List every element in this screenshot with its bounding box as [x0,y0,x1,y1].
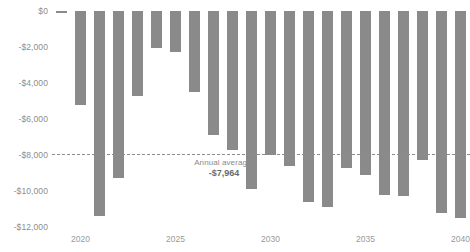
bars-layer [52,0,470,232]
bar [398,11,410,196]
bar [417,11,429,160]
y-axis-tick-label: -$10,000 [14,186,48,196]
bar [132,11,144,96]
bar [189,11,201,92]
x-axis: 20202025203020352040 [52,234,470,252]
bar [284,11,296,166]
bar [322,11,334,207]
bar [341,11,353,168]
x-axis-tick-label: 2040 [451,234,470,244]
y-axis-tick-label: $0 [38,6,48,16]
y-axis-tick-label: -$8,000 [18,150,48,160]
bar [436,11,448,213]
bar [227,11,239,150]
annual-average-line [52,154,470,155]
plot-area: Annual average: -$7,964 [52,0,470,232]
bar [303,11,315,202]
x-axis-tick-label: 2020 [71,234,90,244]
y-axis-tick-label: -$6,000 [18,114,48,124]
bar [455,11,467,218]
bar [56,11,68,13]
bar [113,11,125,178]
bar [265,11,277,155]
y-axis-tick-label: -$4,000 [18,78,48,88]
bar [151,11,163,48]
y-axis: $0-$2,000-$4,000-$6,000-$8,000-$10,000-$… [0,0,52,252]
x-axis-tick-label: 2035 [356,234,375,244]
x-axis-tick-label: 2025 [166,234,185,244]
bar [246,11,258,189]
bar-chart: $0-$2,000-$4,000-$6,000-$8,000-$10,000-$… [0,0,470,252]
bar [94,11,106,216]
y-axis-tick-label: -$2,000 [18,42,48,52]
bar [75,11,87,105]
bar [360,11,372,175]
y-axis-tick-label: -$12,000 [14,222,48,232]
x-axis-tick-label: 2030 [261,234,280,244]
bar [170,11,182,52]
bar [379,11,391,195]
bar [208,11,220,135]
